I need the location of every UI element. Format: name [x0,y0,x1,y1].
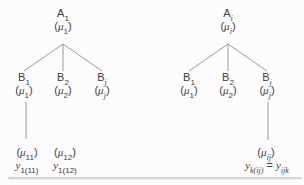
t1-child2-mu: (μ2) [54,84,71,96]
t1-root-label: A1 [57,7,69,19]
edge-ai-bj [228,44,267,71]
t1-leaf2-mu: (μ12) [54,146,76,158]
t1-leaf2-y: y1(12) [53,159,77,171]
t1-leaf1-mu: (μ11) [16,146,37,158]
t2-child1-mu: (μ1) [180,84,197,96]
t1-child1-label: B1 [18,71,30,83]
t1-child1-mu: (μ1) [15,84,32,96]
t1-child2-label: B2 [57,71,69,83]
t2-root-label: Ai [223,7,233,19]
edge-a1-b1 [24,44,63,71]
t1-childj-label: Bj [97,71,107,83]
t2-child2-label: B2 [222,71,234,83]
t1-root-mu: (μ1) [54,20,71,32]
t2-child2-mu: (μ2) [219,84,236,96]
t2-root-mu: (μi) [220,20,235,32]
edge-a1-bj [63,44,102,71]
bottom-rule [8,177,302,180]
t2-leaf-y: yk(ij) = yijk [245,159,289,171]
t2-leaf-mu: (μij) [257,146,274,158]
t2-child1-label: B1 [183,71,195,83]
t1-childj-mu: (μj) [94,84,109,96]
t2-childj-label: Bj [262,71,272,83]
t2-childj-mu: (μj) [259,84,274,96]
edge-ai-b1 [189,44,228,71]
figure-canvas: A1 (μ1) B1 (μ1) B2 (μ2) Bj (μj) (μ11) y1… [0,0,304,185]
t1-leaf1-y: y1(11) [16,159,39,171]
